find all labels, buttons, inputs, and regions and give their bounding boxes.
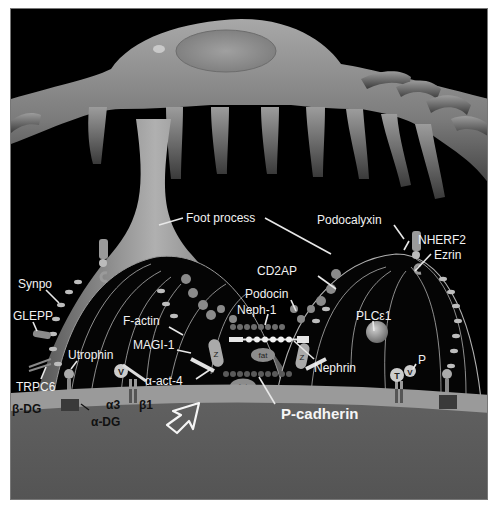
label-cd2ap: CD2AP [257, 264, 297, 278]
label-synpo: Synpo [18, 277, 52, 291]
diagram-frame: fat fat Z Z V [10, 8, 488, 500]
integrin-alpha3-stem [129, 389, 132, 403]
label-alpha-dg: α-DG [91, 415, 120, 429]
label-utrophin: Utrophin [68, 348, 113, 362]
label-alpha3: α3 [106, 398, 120, 412]
label-phospho: P [418, 353, 426, 367]
label-f-actin: F-actin [123, 314, 160, 328]
dystroglycan-block-right [439, 395, 457, 409]
label-podocalyxin: Podocalyxin [317, 213, 382, 227]
label-beta1: β1 [139, 398, 153, 412]
label-beta-dg: β-DG [12, 402, 41, 416]
glomerular-basement-membrane [11, 384, 488, 500]
nephrin-row [229, 336, 309, 343]
plce1-ball [366, 321, 388, 343]
label-magi1: MAGI-1 [133, 338, 175, 352]
svg-text:Z: Z [214, 350, 219, 359]
dystroglycan-block-left [61, 399, 79, 411]
label-trpc6: TRPC6 [16, 380, 56, 394]
integrin-right-stem-b [400, 389, 403, 403]
svg-text:V: V [118, 367, 124, 377]
glepp-protein [32, 329, 51, 339]
label-podocin: Podocin [245, 287, 288, 301]
label-neph1: Neph-1 [237, 303, 277, 317]
label-plce1: PLCε1 [356, 309, 392, 323]
label-alpha-act4: α-act-4 [145, 374, 183, 388]
label-foot-process: Foot process [186, 211, 255, 225]
fat-protein-1: fat [251, 348, 275, 362]
label-nherf2: NHERF2 [418, 233, 466, 247]
svg-text:T: T [394, 371, 400, 381]
label-ezrin: Ezrin [434, 248, 461, 262]
label-nephrin: Nephrin [314, 361, 356, 375]
podocyte-cell-body [11, 19, 488, 184]
nucleus [176, 30, 276, 72]
label-glepp: GLEPP [13, 309, 53, 323]
svg-text:fat: fat [259, 351, 269, 360]
podocyte-diagram: fat fat Z Z V [11, 9, 488, 500]
svg-text:V: V [407, 368, 413, 377]
integrin-beta1-stem [134, 389, 137, 403]
integrin-right-stem-a [395, 389, 398, 403]
svg-text:Z: Z [300, 353, 305, 362]
label-p-cadherin: P-cadherin [281, 405, 359, 422]
